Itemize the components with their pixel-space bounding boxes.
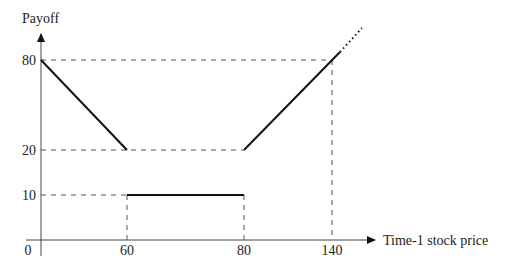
origin-label: 0 — [25, 243, 32, 258]
x-axis-label: Time-1 stock price — [383, 233, 488, 248]
x-tick-140: 140 — [322, 243, 343, 258]
payoff-left-segment — [41, 60, 127, 150]
payoff-chart: Payoff Time-1 stock price 0 60 80 140 80… — [0, 0, 506, 267]
y-tick-80: 80 — [22, 53, 36, 68]
reference-lines — [41, 60, 332, 240]
payoff-right-segment — [244, 52, 340, 150]
x-tick-60: 60 — [120, 243, 134, 258]
payoff-series — [41, 28, 362, 195]
payoff-extension-dotted — [340, 28, 362, 52]
y-axis-label: Payoff — [22, 11, 59, 26]
y-tick-20: 20 — [22, 143, 36, 158]
y-tick-10: 10 — [22, 188, 36, 203]
x-tick-80: 80 — [237, 243, 251, 258]
